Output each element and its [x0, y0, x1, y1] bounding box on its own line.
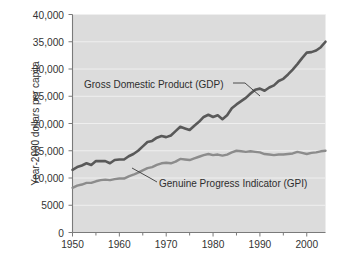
gdp-annotation-label: Gross Domestic Product (GDP) [84, 79, 223, 90]
gpi-annotation-label: Genuine Progress Indicator (GPI) [159, 178, 307, 189]
chart-figure: Year-2000 dollars per capita 0500010,000… [0, 0, 342, 263]
plot-area [0, 0, 342, 263]
